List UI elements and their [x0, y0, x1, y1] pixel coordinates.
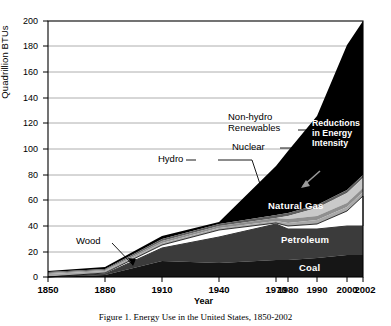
band-label-coal: Coal	[299, 262, 320, 273]
band-label-petroleum: Petroleum	[281, 234, 329, 245]
x-tick-2002: 2002	[345, 284, 385, 295]
x-axis-label: Year	[194, 296, 213, 306]
callout-label-hydro: Hydro	[158, 154, 183, 165]
chart-plot-area	[0, 0, 391, 326]
callout-label-non-hydro-renewables: Non-hydro Renewables	[228, 112, 280, 133]
figure-energy-use: Quadrillion BTUs 200 180 160 140 120 100…	[0, 0, 391, 326]
figure-caption: Figure 1. Energy Use in the United State…	[0, 312, 391, 322]
callout-label-nuclear: Nuclear	[232, 142, 265, 153]
reductions-line-3: Intensity	[312, 138, 348, 148]
x-tick-1850: 1850	[28, 284, 68, 295]
x-axis-ticks	[48, 277, 363, 282]
y-axis-ticks	[43, 21, 48, 277]
x-tick-1940: 1940	[199, 284, 239, 295]
non-hydro-line-2: Renewables	[228, 122, 280, 133]
callout-label-wood: Wood	[76, 236, 101, 247]
band-label-reductions-in-energy-intensity: Reductions in Energy Intensity	[312, 118, 360, 148]
reductions-line-2: in Energy	[312, 128, 352, 138]
x-tick-1910: 1910	[142, 284, 182, 295]
reductions-line-1: Reductions	[312, 118, 360, 128]
x-tick-1880: 1880	[85, 284, 125, 295]
non-hydro-line-1: Non-hydro	[228, 111, 272, 122]
band-label-natural-gas: Natural Gas	[268, 200, 324, 211]
